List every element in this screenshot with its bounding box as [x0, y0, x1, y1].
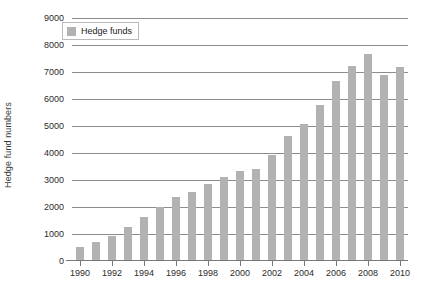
- bar-1996: [172, 197, 181, 261]
- y-tick-6000: 6000: [20, 95, 64, 104]
- bar-2004: [300, 124, 309, 261]
- bar-2005: [316, 105, 325, 261]
- y-tick-1000: 1000: [20, 230, 64, 239]
- x-tick-mark-2008: [368, 261, 369, 266]
- bar-1991: [92, 242, 101, 261]
- y-tick-7000: 7000: [20, 68, 64, 77]
- x-tick-mark-1994: [144, 261, 145, 266]
- bar-2009: [380, 75, 389, 261]
- bar-series-hedge-funds: [72, 18, 408, 261]
- x-tick-mark-1998: [208, 261, 209, 266]
- chart-legend: Hedge funds: [62, 22, 139, 40]
- legend-label-hedge-funds: Hedge funds: [81, 26, 132, 36]
- x-tick-mark-2006: [336, 261, 337, 266]
- y-tick-4000: 4000: [20, 149, 64, 158]
- bar-2006: [332, 81, 341, 261]
- bar-1997: [188, 192, 197, 261]
- y-tick-5000: 5000: [20, 122, 64, 131]
- x-tick-mark-2004: [304, 261, 305, 266]
- bar-2002: [268, 155, 277, 261]
- bar-2001: [252, 169, 261, 261]
- y-tick-2000: 2000: [20, 203, 64, 212]
- x-tick-mark-2002: [272, 261, 273, 266]
- bar-1995: [156, 207, 165, 261]
- plot-area: [72, 18, 408, 261]
- bar-1998: [204, 184, 213, 261]
- bar-2007: [348, 66, 357, 262]
- bar-1994: [140, 217, 149, 262]
- x-tick-mark-2000: [240, 261, 241, 266]
- y-tick-8000: 8000: [20, 41, 64, 50]
- x-tick-mark-1992: [112, 261, 113, 266]
- y-tick-3000: 3000: [20, 176, 64, 185]
- bar-2010: [396, 67, 405, 261]
- bar-1992: [108, 236, 117, 261]
- bar-2000: [236, 171, 245, 261]
- x-tick-mark-1996: [176, 261, 177, 266]
- bar-1993: [124, 227, 133, 261]
- bar-chart: Hedge fund numbers 010002000300040005000…: [0, 0, 422, 290]
- x-axis-tick-labels: 1990199219941996199820002002200420062008…: [0, 268, 422, 284]
- y-axis-tick-labels: 0100020003000400050006000700080009000: [0, 0, 68, 290]
- y-tick-0: 0: [20, 257, 64, 266]
- bar-2003: [284, 136, 293, 261]
- legend-swatch-hedge-funds: [67, 27, 76, 36]
- bar-1999: [220, 177, 229, 261]
- x-axis-line: [66, 260, 408, 261]
- y-tick-9000: 9000: [20, 14, 64, 23]
- bar-1990: [76, 247, 85, 261]
- x-tick-mark-1990: [80, 261, 81, 266]
- x-tick-2010: 2010: [380, 268, 420, 279]
- bar-2008: [364, 54, 373, 261]
- x-tick-mark-2010: [400, 261, 401, 266]
